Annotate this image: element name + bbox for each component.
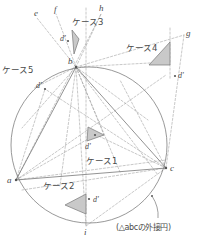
case-2-dprime-label: d' (93, 196, 99, 204)
case-3-dprime-label: d' (60, 35, 66, 43)
vertex-dot-b (75, 66, 77, 68)
ray-point-label-g: g (186, 29, 191, 38)
vertex-dot-a (15, 179, 17, 181)
case-1-triangle (87, 127, 104, 141)
circumcircle-caption: (△abcの外接円) (116, 224, 171, 232)
case-4-dprime-label: d' (178, 72, 184, 80)
ray-point-label-e: e (34, 9, 38, 18)
dashed-construction-lines (16, 8, 184, 226)
case-4-label: ケース4 (126, 44, 157, 53)
edge-ab (16, 67, 76, 180)
case-3-triangle (72, 30, 79, 54)
ray-b-dl (22, 67, 76, 128)
vertex-label-b: b (68, 57, 73, 66)
chord-a-d5 (16, 89, 45, 180)
vertex-label-a: a (7, 176, 12, 185)
case-5-label: ケース5 (2, 66, 33, 75)
caption-leader (152, 196, 158, 218)
geometry-diagram (0, 0, 197, 240)
case-3-dprime-dot (67, 40, 69, 42)
ray-point-label-f: f (54, 5, 57, 14)
case-3-label: ケース3 (72, 18, 103, 27)
case-2-triangle (65, 194, 86, 214)
ray-b-c2 (60, 67, 76, 186)
vertex-label-c: c (170, 164, 174, 173)
geometry-figure-container: abcefhgiケース1d'ケース2d'ケース3d'ケース4d'ケース5d'(△… (0, 0, 197, 240)
case-1-dprime-label: d' (85, 143, 91, 151)
edge-ac (16, 168, 166, 180)
ray-point-label-h: h (99, 4, 104, 13)
vertex-dot-c (165, 167, 167, 169)
case-2-dprime-dot (88, 198, 90, 200)
caption-leader-line (152, 196, 158, 218)
case-4-dprime-dot (174, 75, 176, 77)
ray-point-label-i: i (84, 228, 87, 237)
case-2-label: ケース2 (43, 182, 74, 191)
case-5-dprime-dot (44, 88, 46, 90)
case-1-label: ケース1 (86, 157, 117, 166)
case-1-dprime-dot (94, 134, 96, 136)
case-5-dprime-label: d' (36, 82, 42, 90)
